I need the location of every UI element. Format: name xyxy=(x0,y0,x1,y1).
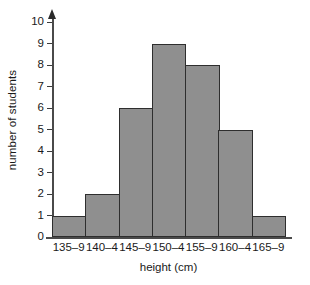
x-axis-tick-labels: 135–9140–4145–9150–4155–9160–4165–9 xyxy=(52,240,285,258)
y-axis-tick-label: 7 xyxy=(38,80,44,93)
y-axis-tick-label: 6 xyxy=(38,101,44,114)
y-axis-tick-label: 4 xyxy=(38,144,44,157)
bar xyxy=(152,44,187,238)
y-axis-title-text: number of students xyxy=(6,70,18,170)
y-axis-tick-label: 5 xyxy=(38,123,44,136)
y-axis-ticks: 012345678910 xyxy=(30,22,52,237)
bar xyxy=(52,216,87,238)
bars-group xyxy=(52,22,285,237)
y-axis-tick-label: 10 xyxy=(31,15,44,28)
x-axis-tick-label: 140–4 xyxy=(85,240,118,255)
x-axis-tick-label: 150–4 xyxy=(152,240,185,255)
x-axis-line xyxy=(46,237,292,239)
bar xyxy=(119,108,154,237)
y-axis-tick-label: 0 xyxy=(38,230,44,243)
x-axis-title: height (cm) xyxy=(52,261,285,273)
bar xyxy=(85,194,120,237)
y-axis-tick-label: 2 xyxy=(38,187,44,200)
y-axis-tick-label: 1 xyxy=(38,209,44,222)
y-axis-arrow-icon xyxy=(48,9,56,19)
x-axis-tick-label: 155–9 xyxy=(185,240,218,255)
x-axis-tick-label: 135–9 xyxy=(52,240,85,255)
bar xyxy=(185,65,220,237)
y-axis-title: number of students xyxy=(0,0,24,240)
y-axis-tick-label: 3 xyxy=(38,166,44,179)
y-axis-tick-label: 8 xyxy=(38,58,44,71)
x-axis-tick-label: 145–9 xyxy=(119,240,152,255)
bar xyxy=(218,130,253,238)
x-axis-tick-label: 165–9 xyxy=(252,240,285,255)
x-axis-tick-label: 160–4 xyxy=(218,240,251,255)
histogram-chart: number of students 012345678910 135–9140… xyxy=(0,0,310,285)
bar xyxy=(252,216,287,238)
y-axis-tick-label: 9 xyxy=(38,37,44,50)
